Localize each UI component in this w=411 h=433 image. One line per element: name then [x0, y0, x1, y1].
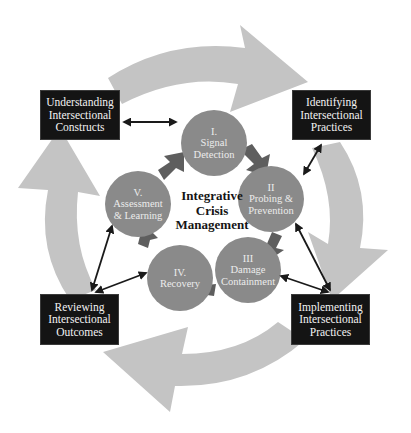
- center-title: Integrative Crisis Management: [162, 189, 262, 233]
- connector-reviewing-to-iv: [96, 273, 146, 292]
- outer-arrow-bottom: [103, 322, 305, 412]
- box-reviewing-outcomes: Reviewing Intersectional Outcomes: [40, 294, 119, 345]
- phase-label-iii: III Damage Containment: [214, 237, 282, 303]
- phase-label-iv: IV. Recovery: [146, 245, 214, 311]
- connector-implementing-to-iii: [281, 276, 328, 292]
- box-implementing-practices: Implementing Intersectional Practices: [291, 294, 370, 345]
- outer-arrow-left: [18, 128, 100, 300]
- outer-arrow-right: [308, 142, 388, 300]
- box-understanding-constructs: Understanding Intersectional Constructs: [40, 90, 120, 140]
- box-identifying-practices: Identifying Intersectional Practices: [292, 90, 371, 140]
- outer-arrow-top: [108, 25, 308, 112]
